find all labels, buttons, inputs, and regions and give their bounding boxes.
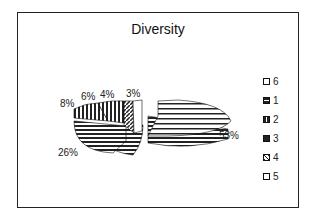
- chart-legend: 6 1 2 3 4 5: [263, 72, 279, 186]
- legend-item: 4: [263, 148, 279, 167]
- chart-frame: Diversity 53% 26% 8% 6% 4% 3%: [17, 12, 299, 208]
- label-4: 4%: [100, 89, 114, 100]
- legend-label: 2: [273, 114, 279, 125]
- label-8: 8%: [60, 98, 74, 109]
- label-26: 26%: [58, 147, 78, 158]
- legend-label: 1: [273, 95, 279, 106]
- legend-label: 3: [273, 133, 279, 144]
- pie-chart: [18, 13, 298, 207]
- legend-label: 5: [273, 171, 279, 182]
- label-3: 3%: [126, 88, 140, 99]
- legend-swatch: [263, 78, 270, 85]
- legend-swatch: [263, 97, 270, 104]
- legend-label: 4: [273, 152, 279, 163]
- legend-swatch: [263, 154, 270, 161]
- legend-swatch: [263, 173, 270, 180]
- legend-item: 3: [263, 129, 279, 148]
- legend-item: 2: [263, 110, 279, 129]
- legend-label: 6: [273, 76, 279, 87]
- label-53: 53%: [219, 130, 239, 141]
- legend-item: 6: [263, 72, 279, 91]
- legend-item: 1: [263, 91, 279, 110]
- label-6: 6%: [81, 91, 95, 102]
- legend-swatch: [263, 135, 270, 142]
- legend-swatch: [263, 116, 270, 123]
- legend-item: 5: [263, 167, 279, 186]
